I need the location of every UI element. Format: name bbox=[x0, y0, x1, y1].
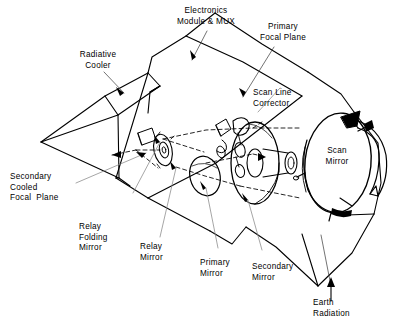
label-relay-folding-mirror: Relay Folding Mirror bbox=[79, 222, 141, 254]
label-scan-line-corrector: Scan Line Corrector bbox=[253, 88, 329, 109]
label-relay-mirror: Relay Mirror bbox=[140, 242, 196, 263]
relay-folding-mirror-shape bbox=[138, 128, 156, 145]
label-earth-radiation: Earth Radiation bbox=[313, 298, 375, 319]
label-radiative-cooler: Radiative Cooler bbox=[62, 50, 134, 71]
label-electronics-module: Electronics Module & MUX bbox=[152, 6, 260, 27]
label-primary-focal-plane: Primary Focal Plane bbox=[245, 22, 321, 43]
diagram-canvas: Radiative Cooler Electronics Module & MU… bbox=[0, 0, 400, 325]
leader-arrowheads bbox=[116, 50, 248, 202]
label-secondary-mirror: Secondary Mirror bbox=[252, 262, 322, 283]
radiative-cooler-body bbox=[41, 73, 160, 186]
primary-mirror-shape bbox=[231, 122, 297, 204]
label-scan-mirror: Scan Mirror bbox=[313, 146, 361, 167]
label-secondary-cooled-focal-plane: Secondary Cooled Focal Plane bbox=[10, 172, 90, 204]
